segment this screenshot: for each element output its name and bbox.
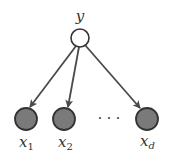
edge-y-xd (85, 45, 140, 108)
observed-node-circle (136, 108, 158, 130)
ellipsis: · · · (98, 110, 120, 126)
naive-bayes-graphical-model: y x1 x2 · · · xd (0, 0, 170, 156)
edge-y-x2 (68, 47, 79, 107)
node-x2-label: x2 (58, 133, 73, 152)
edges (30, 45, 140, 108)
node-x1-label: x1 (19, 133, 34, 152)
node-y-label: y (75, 7, 85, 25)
observed-node-circle (15, 108, 37, 130)
node-xd: xd (136, 108, 158, 151)
node-x1: x1 (15, 108, 37, 152)
node-xd-label: xd (140, 132, 155, 151)
latent-node-circle (71, 29, 89, 47)
node-x2: x2 (53, 108, 75, 152)
observed-node-circle (53, 108, 75, 130)
node-y: y (71, 7, 89, 47)
